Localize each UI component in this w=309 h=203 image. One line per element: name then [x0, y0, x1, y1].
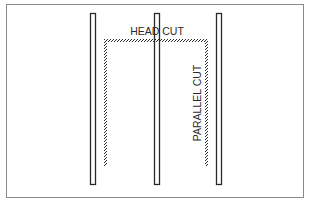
- head-cut-line: [104, 39, 208, 42]
- left-cut-line: [104, 39, 107, 166]
- head-cut-label: HEAD CUT: [130, 25, 184, 37]
- cut-diagram: HEAD CUT PARALLEL CUT: [0, 0, 309, 203]
- parallel-cut-line: [205, 39, 208, 166]
- left-bar: [91, 14, 96, 185]
- right-bar: [217, 14, 222, 185]
- parallel-cut-label: PARALLEL CUT: [191, 64, 203, 141]
